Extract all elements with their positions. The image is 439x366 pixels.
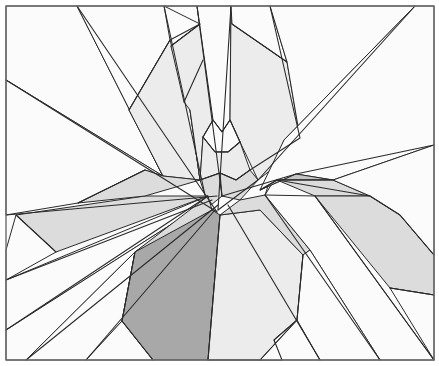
- diagram-canvas: [0, 0, 439, 366]
- geometric-polygon-diagram: [0, 0, 439, 366]
